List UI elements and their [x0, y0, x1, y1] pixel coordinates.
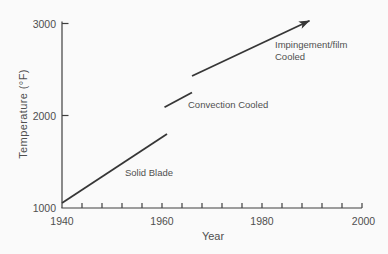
- series-label-impingement-line1: Impingement/film: [275, 39, 347, 50]
- chart-figure: 1000200030001940196019802000 Temperature…: [0, 0, 388, 254]
- y-axis-title: Temperature (°F): [17, 69, 29, 159]
- x-tick-label: 1940: [50, 215, 74, 227]
- x-tick-label: 2000: [352, 215, 376, 227]
- y-tick-label: 3000: [33, 18, 57, 30]
- y-tick-label: 2000: [33, 110, 57, 122]
- series-label-convection: Convection Cooled: [188, 99, 268, 110]
- x-axis-title: Year: [202, 230, 225, 242]
- series-label-impingement-line2: Cooled: [275, 51, 305, 62]
- y-tick-label: 1000: [33, 202, 57, 214]
- x-tick-label: 1980: [250, 215, 274, 227]
- chart-svg: 1000200030001940196019802000 Temperature…: [0, 0, 388, 254]
- series-label-solid-blade: Solid Blade: [125, 167, 173, 178]
- x-tick-label: 1960: [150, 215, 174, 227]
